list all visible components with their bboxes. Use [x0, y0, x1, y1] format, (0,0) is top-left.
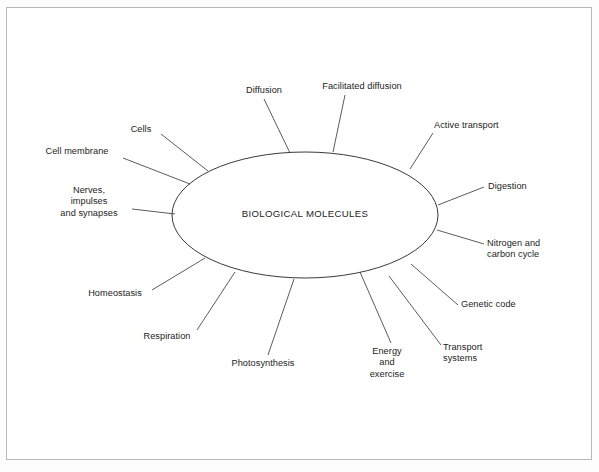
leader-line-nitrogen-and-carbon-cycle	[437, 230, 484, 244]
leader-line-cell-membrane	[123, 158, 190, 184]
branch-label-respiration[interactable]: Respiration	[136, 331, 198, 342]
branch-label-active-transport[interactable]: Active transport	[434, 120, 520, 131]
leader-line-facilitated-diffusion	[333, 95, 345, 152]
leader-line-transport-systems	[389, 276, 441, 345]
branch-label-energy-and-exercise[interactable]: Energy and exercise	[361, 346, 413, 380]
leader-line-diffusion	[264, 99, 290, 153]
mind-map-canvas	[0, 0, 599, 472]
leader-line-digestion	[438, 187, 484, 205]
branch-label-homeostasis[interactable]: Homeostasis	[80, 288, 150, 299]
branch-label-facilitated-diffusion[interactable]: Facilitated diffusion	[311, 81, 413, 92]
leader-line-genetic-code	[411, 264, 458, 305]
branch-label-digestion[interactable]: Digestion	[488, 181, 540, 192]
leader-line-active-transport	[410, 133, 433, 169]
leader-line-energy-and-exercise	[360, 272, 391, 343]
branch-label-photosynthesis[interactable]: Photosynthesis	[223, 358, 303, 369]
branch-label-diffusion[interactable]: Diffusion	[236, 85, 292, 96]
central-topic-label: BIOLOGICAL MOLECULES	[172, 208, 438, 219]
branch-label-nerves-impulses-and-synapses[interactable]: Nerves, impulses and synapses	[50, 185, 128, 219]
branch-label-nitrogen-and-carbon-cycle[interactable]: Nitrogen and carbon cycle	[487, 238, 559, 261]
branch-label-genetic-code[interactable]: Genetic code	[461, 299, 531, 310]
leader-line-nerves-impulses-and-synapses	[132, 209, 175, 214]
leader-line-photosynthesis	[268, 279, 294, 355]
branch-label-cells[interactable]: Cells	[125, 124, 157, 135]
leader-line-respiration	[197, 272, 235, 330]
branch-label-cell-membrane[interactable]: Cell membrane	[35, 146, 119, 157]
diagram-page: BIOLOGICAL MOLECULES DiffusionFacilitate…	[0, 0, 599, 472]
leader-line-homeostasis	[152, 258, 205, 290]
branch-label-transport-systems[interactable]: Transport systems	[443, 342, 501, 365]
leader-lines-group	[123, 95, 484, 355]
leader-line-cells	[161, 134, 208, 171]
